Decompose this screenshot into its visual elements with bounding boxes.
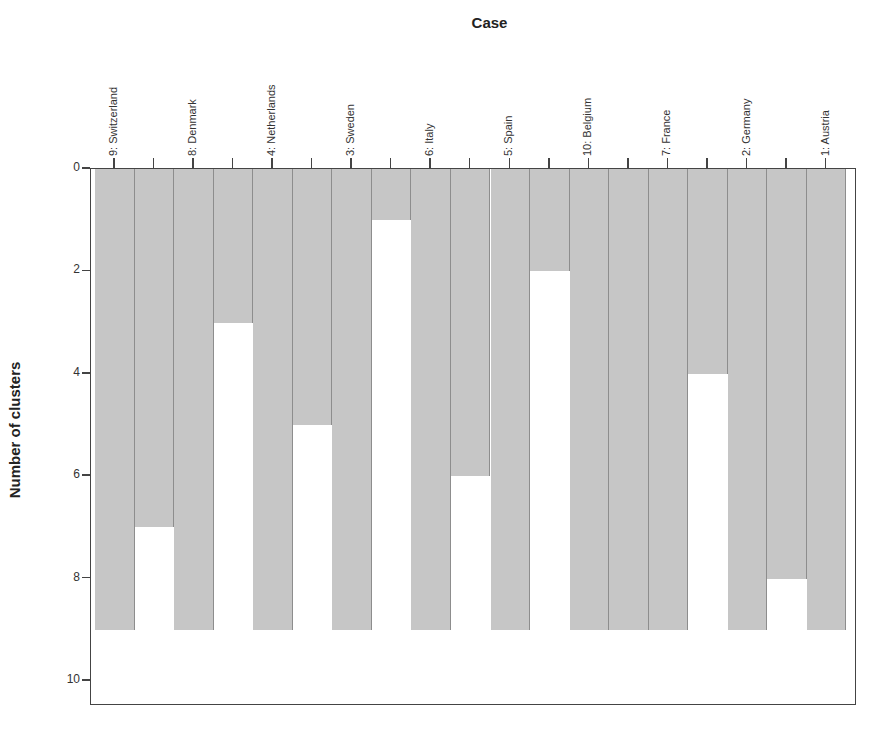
x-tick <box>627 158 629 168</box>
x-tick-label: 5: Spain <box>502 116 514 156</box>
x-tick <box>271 158 273 168</box>
y-tick <box>82 474 90 476</box>
case-bar <box>332 169 372 630</box>
x-tick-label: 7: France <box>660 110 672 156</box>
y-tick <box>82 167 90 169</box>
x-tick <box>311 158 313 168</box>
join-bar <box>767 169 807 579</box>
y-tick-label: 0 <box>58 160 80 174</box>
join-bar <box>372 169 412 220</box>
x-tick <box>706 158 708 168</box>
x-tick <box>469 158 471 168</box>
case-bar <box>649 169 689 630</box>
join-bar <box>609 169 649 630</box>
y-tick <box>82 577 90 579</box>
x-tick-label: 1: Austria <box>819 110 831 156</box>
case-bar <box>728 169 768 630</box>
x-tick <box>746 158 748 168</box>
x-tick-label: 9: Switzerland <box>107 87 119 156</box>
x-tick <box>509 158 511 168</box>
x-tick-label: 6: Italy <box>423 124 435 156</box>
y-tick <box>82 372 90 374</box>
case-bar <box>807 169 847 630</box>
y-tick-label: 10 <box>58 672 80 686</box>
x-tick <box>153 158 155 168</box>
x-tick-label: 3: Sweden <box>344 104 356 156</box>
case-bar <box>253 169 293 630</box>
join-bar <box>530 169 570 271</box>
join-bar <box>214 169 254 323</box>
join-bar <box>451 169 491 476</box>
y-tick-label: 8 <box>58 570 80 584</box>
case-bar <box>411 169 451 630</box>
y-tick-label: 2 <box>58 262 80 276</box>
x-tick <box>667 158 669 168</box>
x-tick-label: 2: Germany <box>740 99 752 156</box>
case-bar <box>570 169 610 630</box>
join-bar <box>688 169 728 374</box>
x-tick-label: 8: Denmark <box>186 99 198 156</box>
x-tick-label: 10: Belgium <box>581 98 593 156</box>
y-tick <box>82 270 90 272</box>
x-tick <box>350 158 352 168</box>
x-tick <box>113 158 115 168</box>
chart-title: Case <box>0 14 889 31</box>
case-bar <box>491 169 531 630</box>
case-bar <box>95 169 135 630</box>
x-tick <box>825 158 827 168</box>
x-tick <box>785 158 787 168</box>
x-tick <box>429 158 431 168</box>
x-tick <box>232 158 234 168</box>
join-bar <box>293 169 333 425</box>
x-tick-label: 4: Netherlands <box>265 84 277 156</box>
x-tick <box>192 158 194 168</box>
x-tick <box>548 158 550 168</box>
case-bar <box>174 169 214 630</box>
y-axis-label: Number of clusters <box>6 362 23 499</box>
y-tick-label: 6 <box>58 467 80 481</box>
plot-frame <box>90 168 856 705</box>
x-tick <box>588 158 590 168</box>
y-tick <box>82 679 90 681</box>
x-tick <box>390 158 392 168</box>
join-bar <box>135 169 175 527</box>
y-tick-label: 4 <box>58 365 80 379</box>
